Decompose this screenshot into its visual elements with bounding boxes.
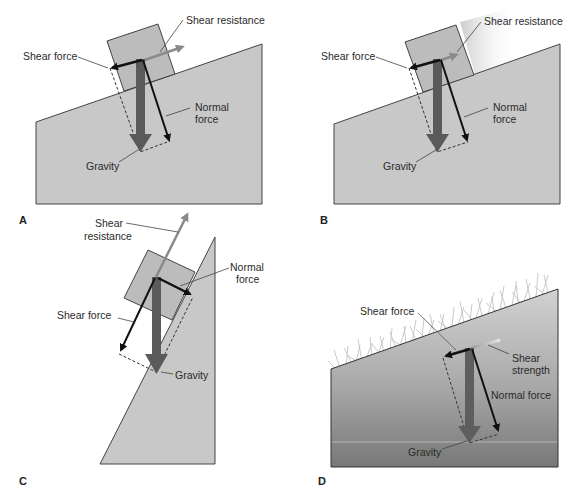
label-normal-force: force [236, 273, 260, 285]
label-normal-force: Normal [195, 101, 229, 113]
panel-letter-d: D [318, 475, 326, 487]
label-shear-resistance: Shear resistance [186, 14, 265, 26]
label-gravity: Gravity [175, 369, 209, 381]
panel-a: Shear resistance Shear force Normal forc… [19, 14, 265, 226]
leader-line [78, 57, 108, 68]
label-normal-force: Normal [230, 261, 264, 273]
slope-forces-figure: Shear resistance Shear force Normal forc… [0, 0, 573, 504]
label-normal-force: Normal force [491, 389, 551, 401]
label-gravity: Gravity [408, 446, 442, 458]
label-gravity: Gravity [86, 160, 120, 172]
label-gravity: Gravity [383, 160, 417, 172]
label-normal-force: force [195, 113, 219, 125]
panel-b: Shear resistance Shear force Normal forc… [320, 10, 563, 226]
leader-line [376, 57, 407, 68]
panel-letter-a: A [19, 214, 27, 226]
panel-c: Shear resistance Normal force Shear forc… [19, 215, 264, 487]
label-shear-force: Shear force [360, 305, 414, 317]
label-shear-force: Shear force [23, 50, 77, 62]
panel-letter-c: C [19, 475, 27, 487]
label-shear-force: Shear force [57, 309, 111, 321]
label-shear-resistance: resistance [84, 230, 132, 242]
label-shear-resistance: Shear [95, 217, 124, 229]
panel-letter-b: B [320, 214, 328, 226]
label-normal-force: force [493, 113, 517, 125]
panel-d: Shear force Shear strength Normal force … [318, 273, 558, 487]
leader-line [126, 223, 178, 232]
leader-line [118, 318, 134, 322]
label-shear-strength: strength [512, 364, 550, 376]
label-shear-strength: Shear [512, 352, 541, 364]
label-normal-force: Normal [493, 101, 527, 113]
label-shear-resistance: Shear resistance [484, 15, 563, 27]
label-shear-force: Shear force [321, 50, 375, 62]
